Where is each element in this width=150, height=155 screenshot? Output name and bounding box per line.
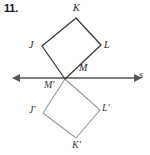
- preimage-quadrilateral-jklm: [42, 18, 101, 79]
- vertex-label-j-prime: J': [29, 105, 36, 115]
- vertex-label-l-prime: L': [102, 103, 110, 113]
- vertex-label-m: M: [79, 63, 87, 73]
- vertex-label-k-prime: K': [72, 140, 81, 150]
- vertex-label-l: L: [104, 40, 110, 50]
- vertex-label-k: K: [73, 3, 80, 13]
- vertex-label-m-prime: M': [44, 80, 54, 90]
- vertex-label-j: J: [29, 40, 33, 50]
- geometry-figure-panel: 11. K J L M K' J' L' M' s: [0, 0, 150, 155]
- reflection-diagram-svg: [0, 0, 150, 155]
- line-label-s: s: [139, 70, 143, 81]
